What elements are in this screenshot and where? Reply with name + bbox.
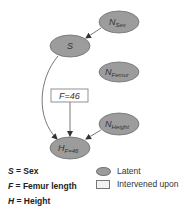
legend-item-f: F = Femur length <box>8 179 77 194</box>
node-n-sex: NSex <box>99 11 139 33</box>
edge-nsex-to-s <box>86 28 101 38</box>
edge-nheight-to-h <box>86 130 101 139</box>
node-s: S <box>50 35 90 57</box>
legend-item-s: S = Sex <box>8 164 77 179</box>
legend-key-intervened: Intervened upon <box>96 178 178 191</box>
svg-text:F=46: F=46 <box>59 91 80 101</box>
svg-text:S: S <box>67 41 73 51</box>
variable-legend: S = Sex F = Femur length H = Height <box>8 164 77 207</box>
legend-key-latent: Latent <box>96 165 178 178</box>
node-h: HF=46 <box>50 137 90 159</box>
intervened-box-icon <box>96 180 110 189</box>
node-n-femur: NFemur <box>99 62 139 82</box>
shape-legend: Latent Intervened upon <box>96 165 178 191</box>
node-f-intervened: F=46 <box>51 89 88 102</box>
node-n-height: NHeight <box>99 113 139 135</box>
latent-ellipse-icon <box>96 167 111 176</box>
legend-item-h: H = Height <box>8 194 77 207</box>
